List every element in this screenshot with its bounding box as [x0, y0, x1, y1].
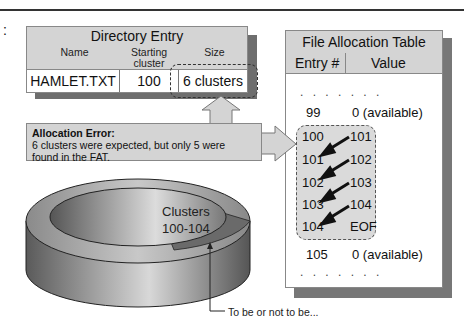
error-title: Allocation Error:: [32, 127, 256, 139]
error-message-line1: 6 clusters were expected, but only 5 wer…: [32, 139, 256, 151]
diagram-graphics: [0, 0, 464, 333]
disk-icon: [26, 179, 250, 307]
right-arrow: [261, 126, 296, 161]
disk-label-line2: 100-104: [162, 220, 210, 237]
chain-arrows: [322, 137, 349, 224]
chain-arrowhead: [322, 145, 334, 155]
chain-arrowhead: [322, 191, 334, 201]
chain-arrowhead: [322, 214, 334, 224]
error-message-line2: found in the FAT.: [32, 151, 256, 163]
disk-label: Clusters 100-104: [162, 203, 210, 237]
disk-label-line1: Clusters: [162, 203, 210, 220]
allocation-error-box: Allocation Error: 6 clusters were expect…: [26, 123, 262, 161]
chain-arrowhead: [322, 168, 334, 178]
up-arrow: [202, 96, 240, 125]
disk-caption: To be or not to be...: [228, 306, 318, 318]
